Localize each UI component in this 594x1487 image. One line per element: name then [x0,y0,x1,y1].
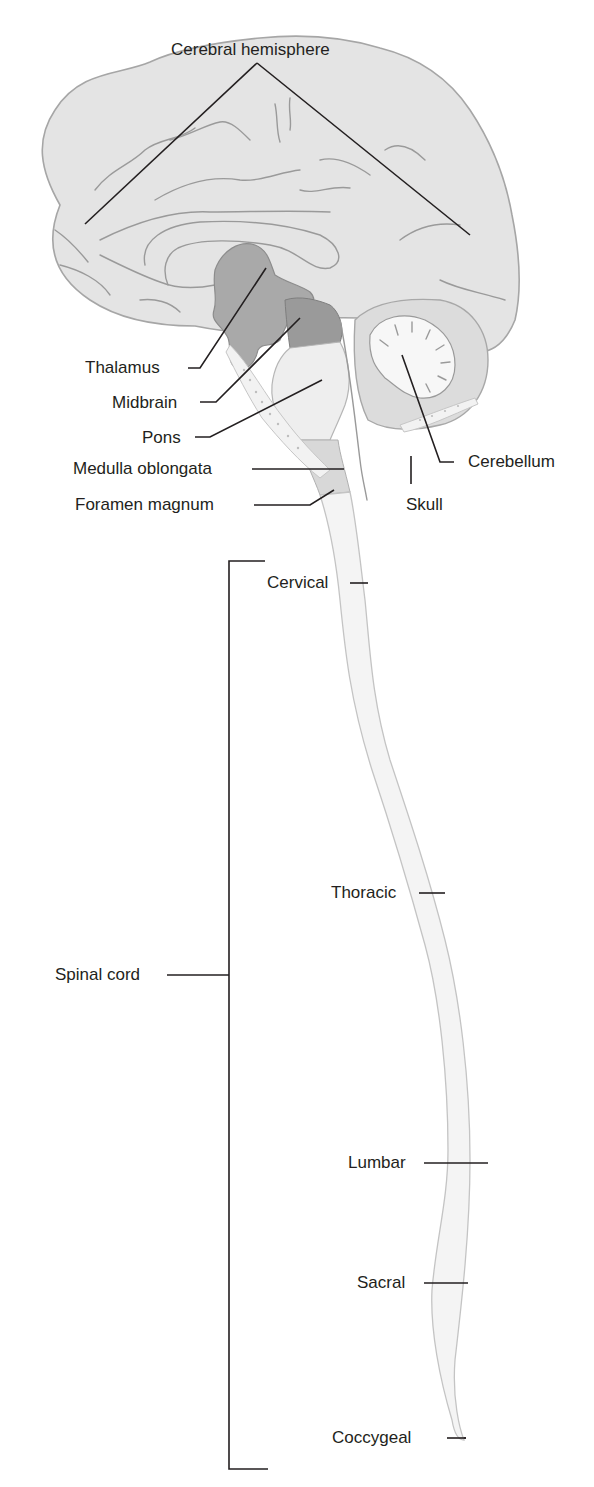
spinal-cord [320,492,470,1440]
label-foramen-magnum: Foramen magnum [75,495,214,515]
brain-spinal-cord-diagram [0,0,594,1487]
label-medulla-oblongata: Medulla oblongata [73,459,212,479]
label-midbrain: Midbrain [112,393,177,413]
label-pons: Pons [142,428,181,448]
label-thoracic: Thoracic [331,883,396,903]
label-cervical: Cervical [267,573,328,593]
label-thalamus: Thalamus [85,358,160,378]
label-coccygeal: Coccygeal [332,1428,411,1448]
label-spinal-cord: Spinal cord [55,965,140,985]
label-cerebellum: Cerebellum [468,452,555,472]
label-cerebral-hemisphere: Cerebral hemisphere [171,40,330,60]
label-skull: Skull [406,495,443,515]
label-sacral: Sacral [357,1273,405,1293]
label-lumbar: Lumbar [348,1153,406,1173]
